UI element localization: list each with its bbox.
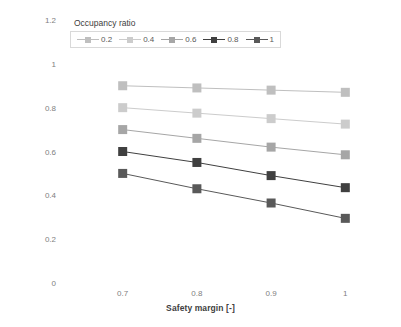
chart-container: IT installed capacity credit [%] 00.20.4… — [0, 0, 401, 327]
series-line — [123, 130, 346, 155]
legend-title: Occupancy ratio — [70, 18, 281, 28]
series-line — [123, 152, 346, 188]
series-svg — [0, 0, 401, 327]
data-point-marker — [192, 158, 201, 167]
series-1 — [118, 169, 350, 223]
data-point-marker — [192, 134, 201, 143]
data-point-marker — [341, 150, 350, 159]
data-point-marker — [267, 199, 276, 208]
legend-label: 0.4 — [143, 35, 154, 44]
data-point-marker — [192, 184, 201, 193]
series-line — [123, 108, 346, 124]
legend-marker-icon — [119, 35, 141, 44]
data-point-marker — [118, 81, 127, 90]
legend-marker-icon — [246, 35, 268, 44]
legend-label: 0.6 — [185, 35, 196, 44]
legend-label: 0.8 — [227, 35, 238, 44]
legend-marker-icon — [203, 35, 225, 44]
series-0.8 — [118, 147, 350, 192]
series-0.6 — [118, 125, 350, 159]
legend-marker-icon — [161, 35, 183, 44]
data-point-marker — [267, 143, 276, 152]
series-line — [123, 173, 346, 218]
data-point-marker — [118, 103, 127, 112]
legend-entry-1[interactable]: 1 — [246, 35, 274, 44]
legend-label: 0.2 — [101, 35, 112, 44]
data-point-marker — [118, 169, 127, 178]
data-point-marker — [341, 214, 350, 223]
data-point-marker — [341, 183, 350, 192]
series-0.4 — [118, 103, 350, 128]
x-axis-title: Safety margin [-] — [0, 303, 401, 313]
data-point-marker — [341, 120, 350, 129]
legend-marker-icon — [77, 35, 99, 44]
data-point-marker — [267, 86, 276, 95]
data-point-marker — [267, 171, 276, 180]
legend-entry-0.6[interactable]: 0.6 — [161, 35, 196, 44]
data-point-marker — [118, 125, 127, 134]
legend-entry-0.2[interactable]: 0.2 — [77, 35, 112, 44]
plot-area — [0, 0, 401, 327]
legend-entry-0.8[interactable]: 0.8 — [203, 35, 238, 44]
legend-box: 0.20.40.60.81 — [70, 31, 281, 48]
legend: Occupancy ratio 0.20.40.60.81 — [70, 18, 281, 48]
data-point-marker — [267, 114, 276, 123]
data-point-marker — [118, 147, 127, 156]
data-point-marker — [192, 83, 201, 92]
legend-entry-0.4[interactable]: 0.4 — [119, 35, 154, 44]
series-0.2 — [118, 81, 350, 97]
legend-label: 1 — [270, 35, 274, 44]
data-point-marker — [192, 109, 201, 118]
series-line — [123, 86, 346, 93]
data-point-marker — [341, 88, 350, 97]
